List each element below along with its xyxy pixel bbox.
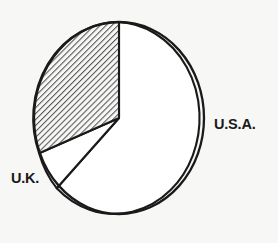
pie-label-uk: U.K.: [11, 171, 39, 186]
pie-chart-figure: U.S.A. U.K.: [0, 0, 278, 243]
pie-label-usa: U.S.A.: [214, 117, 256, 132]
